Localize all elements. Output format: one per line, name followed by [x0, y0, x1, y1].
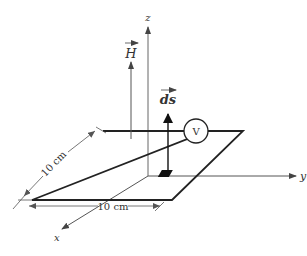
voltmeter-label: V	[191, 126, 200, 137]
z-axis-label: z	[144, 12, 151, 23]
dim-x-line-lower	[24, 176, 43, 196]
ds-label: ds	[160, 92, 177, 107]
dim-x-tick-top	[96, 127, 106, 133]
dim-x-label: 10 cm	[39, 148, 69, 178]
h-field-label: H	[124, 46, 137, 61]
x-axis-label: x	[54, 232, 60, 243]
dim-y-label: 10 cm	[98, 201, 130, 212]
loop-field-diagram: V H ds z y x 10 cm 10 cm	[0, 0, 307, 256]
dim-x-tick-bottom	[13, 194, 26, 209]
square-loop	[32, 131, 243, 200]
dim-x-line-upper	[68, 131, 95, 152]
dim-y-tick-right	[155, 202, 164, 211]
y-axis-label: y	[299, 170, 307, 183]
